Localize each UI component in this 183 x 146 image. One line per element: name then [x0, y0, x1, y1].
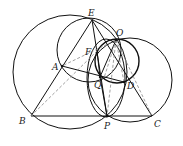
- circle-oqp: [87, 39, 125, 117]
- point-q: [99, 76, 101, 78]
- label-q: Q: [94, 80, 102, 90]
- label-f: F: [84, 47, 92, 57]
- label-d: D: [126, 81, 134, 91]
- label-e: E: [87, 8, 95, 18]
- point-d: [123, 81, 125, 83]
- geometry-diagram: E O F A Q D B P C: [0, 0, 183, 146]
- label-c: C: [154, 119, 161, 129]
- circle-large: [13, 15, 127, 129]
- point-a: [61, 65, 63, 67]
- point-p: [106, 115, 108, 117]
- label-o: O: [116, 28, 124, 38]
- label-b: B: [18, 116, 26, 126]
- diagram-canvas: E O F A Q D B P C: [0, 0, 183, 146]
- point-o: [115, 39, 117, 41]
- label-p: P: [103, 121, 111, 131]
- label-a: A: [51, 62, 59, 72]
- dashed-oc: [116, 40, 152, 116]
